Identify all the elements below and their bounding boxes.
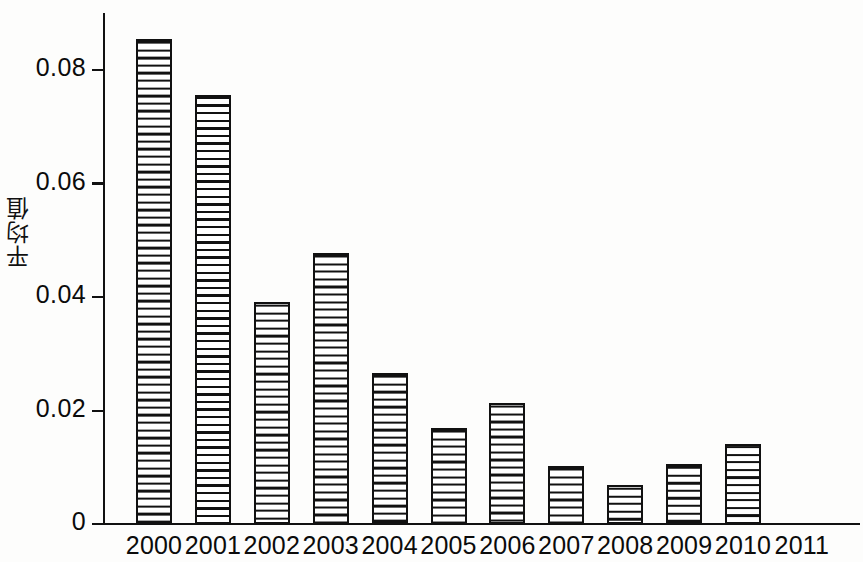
x-axis-tick-label: 2005	[415, 531, 483, 560]
bar-chart: 平均值 00.020.040.060.08 200020012002200320…	[0, 0, 863, 562]
x-axis-tick-label: 2009	[650, 531, 718, 560]
bar-2007	[548, 466, 584, 525]
x-axis-tick-label: 2004	[356, 531, 424, 560]
bar-2000	[136, 39, 172, 525]
bar-2010	[725, 444, 761, 524]
x-axis-tick-label: 2003	[297, 531, 365, 560]
bar-2001	[195, 95, 231, 524]
bar-2002	[254, 302, 290, 525]
x-axis-tick-label: 2006	[473, 531, 541, 560]
x-axis-tick-label: 2008	[591, 531, 659, 560]
x-axis-tick-label: 2001	[179, 531, 247, 560]
bar-2008	[607, 485, 643, 525]
bars-group	[0, 0, 863, 562]
x-axis-tick-label: 2011	[768, 531, 836, 560]
x-axis-tick-labels: 2000200120022003200420052006200720082009…	[0, 531, 863, 562]
bar-2009	[666, 464, 702, 525]
bar-2006	[489, 403, 525, 525]
x-axis-tick-label: 2007	[532, 531, 600, 560]
bar-2004	[372, 373, 408, 525]
x-axis-tick-label: 2002	[238, 531, 306, 560]
bar-2003	[313, 253, 349, 525]
bar-2005	[431, 428, 467, 525]
x-axis-tick-label: 2010	[709, 531, 777, 560]
x-axis-tick-label: 2000	[120, 531, 188, 560]
